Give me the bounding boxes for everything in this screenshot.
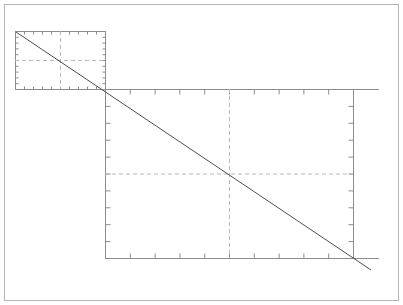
figure-canvas [0,0,403,305]
plot-svg [0,0,403,305]
